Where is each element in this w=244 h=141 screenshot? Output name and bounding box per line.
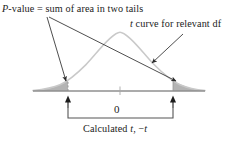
bracket-caption-italic-neg-t: t (144, 123, 147, 134)
tcurve-annotation-label: t curve for relevant df (130, 18, 221, 29)
left-critical-marker (65, 96, 71, 103)
tcurve-leader-line (152, 34, 183, 63)
bracket-caption-label: Calculated t, −t (83, 123, 147, 134)
tcurve-annotation-text: curve for relevant df (133, 18, 221, 29)
pvalue-annotation-label: P-value = sum of area in two tails (2, 3, 143, 14)
axis-center-label: 0 (114, 103, 120, 115)
calculated-t-bracket (68, 108, 173, 118)
bracket-caption-lead: Calculated (83, 123, 130, 134)
pvalue-annotation-text: -value = sum of area in two tails (8, 3, 143, 14)
pvalue-leader-line-left (47, 17, 66, 81)
t-distribution-curve (33, 32, 205, 90)
bracket-caption-separator: , − (133, 123, 144, 134)
right-critical-marker (170, 96, 176, 103)
t-distribution-two-tailed-figure: P-value = sum of area in two tails t cur… (0, 0, 244, 141)
